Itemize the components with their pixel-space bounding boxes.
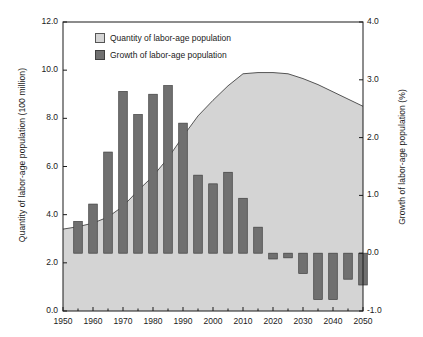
bar-2000 [209, 184, 218, 253]
bar-2005 [224, 172, 233, 253]
y-tick-label-left: 8.0 [32, 112, 58, 122]
y-tick-label-right: 0.0 [367, 247, 395, 257]
x-tick-label: 1990 [166, 316, 200, 326]
y-tick-label-right: 2.0 [367, 132, 395, 142]
x-tick-label: 2020 [256, 316, 290, 326]
x-tick-label: 2050 [346, 316, 380, 326]
y-tick-label-left: 6.0 [32, 161, 58, 171]
bar-2025 [284, 253, 293, 258]
bar-2015 [254, 227, 263, 253]
x-tick-label: 1980 [136, 316, 170, 326]
x-tick-label: 1960 [76, 316, 110, 326]
bar-1995 [194, 175, 203, 253]
y-tick-label-left: 0.0 [32, 305, 58, 315]
bar-2035 [314, 253, 323, 299]
bar-1960 [89, 204, 98, 253]
bar-2010 [239, 198, 248, 253]
y-tick-label-right: 3.0 [367, 74, 395, 84]
bar-1985 [164, 86, 173, 254]
y-tick-label-left: 12.0 [32, 16, 58, 26]
y-tick-label-right: 4.0 [367, 16, 395, 26]
y-tick-label-left: 2.0 [32, 257, 58, 267]
bar-swatch [95, 50, 105, 60]
x-tick-label: 2030 [286, 316, 320, 326]
legend-item-quantity[interactable]: Quantity of labor-age population [95, 33, 231, 43]
bar-2040 [329, 253, 338, 299]
x-tick-label: 2000 [196, 316, 230, 326]
chart-root: Quantity of labor-age population (100 mi… [0, 0, 423, 337]
bar-1975 [134, 114, 143, 253]
y-tick-label-right: -1.0 [367, 305, 395, 315]
bar-2020 [269, 253, 278, 259]
legend-label: Growth of labor-age population [110, 50, 227, 60]
bar-1965 [104, 152, 113, 253]
y-tick-label-left: 4.0 [32, 209, 58, 219]
x-tick-label: 2040 [316, 316, 350, 326]
x-tick-label: 2010 [226, 316, 260, 326]
bar-1970 [119, 91, 128, 253]
legend-item-growth[interactable]: Growth of labor-age population [95, 50, 227, 60]
bar-1980 [149, 94, 158, 253]
x-tick-label: 1950 [46, 316, 80, 326]
area-swatch [95, 33, 105, 43]
y-tick-label-right: 1.0 [367, 189, 395, 199]
bar-2045 [344, 253, 353, 279]
bar-1955 [74, 221, 83, 253]
x-tick-label: 1970 [106, 316, 140, 326]
legend-label: Quantity of labor-age population [110, 33, 231, 43]
y-tick-label-left: 10.0 [32, 64, 58, 74]
bar-2030 [299, 253, 308, 273]
bar-1990 [179, 123, 188, 253]
